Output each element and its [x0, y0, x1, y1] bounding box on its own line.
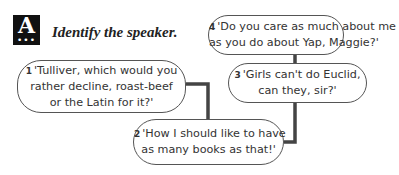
quote-4-line-2: as you do about Yap, Maggie?': [209, 35, 343, 51]
quote-number: 3: [234, 70, 240, 80]
quote-number: 1: [26, 66, 32, 76]
connector-1-to-2: [186, 84, 208, 119]
quote-2-line-2: as many books as that!': [134, 142, 283, 158]
quote-3-line-2: can they, sir?': [229, 83, 366, 99]
quote-number: 4: [209, 22, 215, 32]
quote-2-line-1: 2'How I should like to have: [134, 126, 283, 142]
quote-bubble-4: 4'Do you care as much about me as you do…: [208, 15, 344, 55]
quote-bubble-2: 2'How I should like to have as many book…: [133, 119, 284, 165]
quote-3-line-1: 3'Girls can't do Euclid,: [229, 67, 366, 83]
quote-1-line-3: or the Latin for it?': [18, 95, 185, 111]
quote-bubble-3: 3'Girls can't do Euclid, can they, sir?': [228, 63, 367, 103]
quote-4-line-1: 4'Do you care as much about me: [209, 19, 343, 35]
quote-1-line-1: 1'Tulliver, which would you: [18, 63, 185, 79]
quote-1-line-2: rather decline, roast-beef: [18, 79, 185, 95]
quote-bubble-1: 1'Tulliver, which would you rather decli…: [17, 60, 186, 113]
quote-number: 2: [134, 129, 140, 139]
